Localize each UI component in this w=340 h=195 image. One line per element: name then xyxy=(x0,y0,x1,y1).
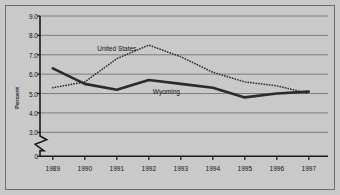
y-tick-label: 9.0 xyxy=(29,13,38,20)
x-tick-label: 1991 xyxy=(110,165,124,172)
x-tick-label: 1990 xyxy=(78,165,92,172)
y-axis-tick-labels: 9.08.07.06.05.04.03.00 xyxy=(14,16,38,160)
x-tick-label: 1995 xyxy=(238,165,252,172)
y-tick-label: 7.0 xyxy=(29,51,38,58)
chart-canvas xyxy=(40,16,328,160)
x-tick-label: 1996 xyxy=(270,165,284,172)
plot-area: United StatesWyoming xyxy=(40,16,328,160)
y-tick-label: 6.0 xyxy=(29,71,38,78)
x-axis-tick-labels: 198919901991199219931994199519961997 xyxy=(40,165,328,175)
y-tick-label: 8.0 xyxy=(29,32,38,39)
x-tick-label: 1993 xyxy=(174,165,188,172)
x-tick-label: 1997 xyxy=(302,165,316,172)
y-tick-label: 5.0 xyxy=(29,90,38,97)
series-label-2: Wyoming xyxy=(153,88,180,95)
chart-frame: Percent 9.08.07.06.05.04.03.00 United St… xyxy=(5,5,335,190)
y-tick-label: 3.0 xyxy=(29,129,38,136)
x-tick-label: 1994 xyxy=(206,165,220,172)
y-tick-label: 4.0 xyxy=(29,109,38,116)
x-tick-label: 1989 xyxy=(46,165,60,172)
x-tick-label: 1992 xyxy=(142,165,156,172)
chart-figure: Percent 9.08.07.06.05.04.03.00 United St… xyxy=(0,0,340,195)
series-label-1: United States xyxy=(97,44,136,51)
